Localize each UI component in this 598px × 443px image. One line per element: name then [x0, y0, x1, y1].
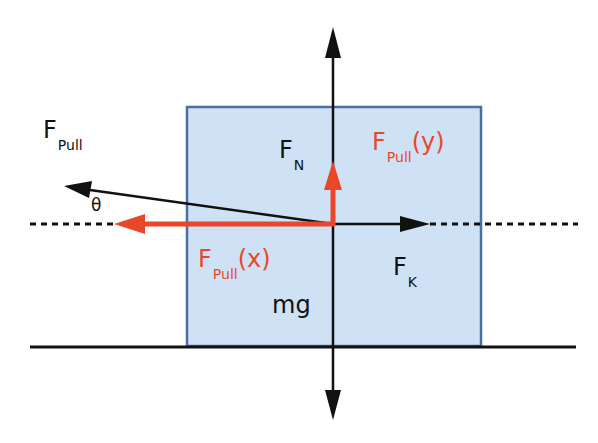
weight-arrowhead-icon	[325, 390, 341, 420]
label-f-pull-x: FPull(x)	[198, 247, 271, 271]
pull-force-arrowhead-icon	[64, 181, 92, 198]
label-mg: mg	[272, 293, 311, 317]
label-theta: θ	[91, 197, 101, 214]
normal-force-arrowhead-icon	[325, 27, 341, 58]
free-body-diagram	[0, 0, 598, 443]
label-f-pull-y: FPull(y)	[372, 130, 445, 154]
label-f-pull: FPull	[43, 118, 83, 142]
label-f-normal: FN	[279, 138, 304, 162]
label-f-kinetic: FK	[393, 255, 417, 279]
pull-x-arrowhead-icon	[114, 214, 145, 234]
